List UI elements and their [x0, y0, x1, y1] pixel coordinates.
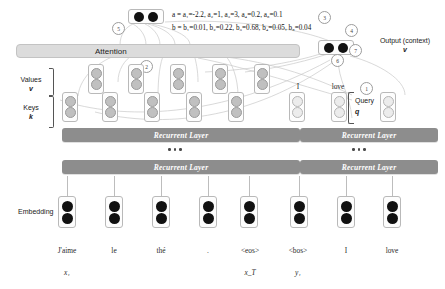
embedding-dot — [244, 213, 255, 224]
embedding-connector — [299, 176, 300, 196]
query-label: Query — [355, 97, 374, 105]
embedding-cell-3 — [152, 196, 170, 228]
key-cell-1 — [62, 92, 78, 122]
step-marker-7: 7 — [349, 44, 362, 57]
formula-b: b = b₁=0.01, b₂=0.22, b₃=0.68, b₄=0.05, … — [172, 24, 311, 32]
embedding-dot — [294, 201, 305, 212]
step-marker-4: 4 — [345, 24, 358, 37]
target-token-3: love — [370, 246, 414, 255]
key-dot — [231, 96, 242, 107]
value-cell-5 — [254, 64, 270, 94]
weighted-sum-dot-1 — [134, 12, 144, 22]
decoder-state-label-1: I — [288, 82, 308, 91]
source-subscript-last: x_T — [226, 268, 274, 277]
key-cell-4 — [186, 92, 202, 122]
embedding-dot — [294, 213, 305, 224]
target-token-2: I — [327, 246, 365, 255]
decoder-state-dot — [292, 107, 303, 118]
embedding-connector — [114, 176, 115, 196]
embedding-connector — [208, 176, 209, 196]
decoder-state-cell-3 — [380, 92, 396, 122]
context-dot-2 — [338, 43, 348, 53]
encoder-recurrent-layer-bottom-label: Recurrent Layer — [154, 163, 209, 172]
key-dot — [65, 96, 76, 107]
key-cell-5 — [228, 92, 244, 122]
key-dot — [147, 107, 158, 118]
embedding-dot — [244, 201, 255, 212]
source-token-5: <eos> — [226, 246, 274, 255]
value-dot — [173, 79, 184, 90]
embedding-cell-5 — [240, 196, 258, 228]
decoder-recurrent-layer-bottom-label: Recurrent Layer — [342, 163, 397, 172]
embedding-cell-2 — [105, 196, 123, 228]
step-marker-5: 5 — [112, 22, 125, 35]
decoder-state-label-2: love — [325, 82, 351, 91]
decoder-recurrent-layer-top: Recurrent Layer — [300, 128, 438, 142]
encoder-recurrent-layer-bottom: Recurrent Layer — [62, 160, 300, 174]
source-token-3: thé — [138, 246, 184, 255]
keys-symbol: k — [14, 113, 48, 121]
weighted-sum-dot-2 — [148, 12, 158, 22]
output-context-symbol: v — [370, 46, 440, 54]
source-token-2: le — [92, 246, 136, 255]
embedding-cell-4 — [199, 196, 217, 228]
embedding-dot — [387, 201, 398, 212]
step-marker-6: 6 — [331, 54, 344, 67]
embedding-connector — [161, 176, 162, 196]
embedding-dot — [203, 213, 214, 224]
attention-bar[interactable]: Attention — [16, 44, 300, 58]
target-subscript-first: y₁ — [274, 268, 322, 277]
decoder-state-dot — [383, 96, 394, 107]
values-brace — [49, 68, 54, 96]
key-dot — [231, 107, 242, 118]
embedding-dot — [341, 213, 352, 224]
decoder-state-dot — [383, 107, 394, 118]
value-dot — [131, 79, 142, 90]
key-dot — [65, 107, 76, 118]
keys-brace — [49, 96, 54, 128]
query-dot — [334, 96, 345, 107]
output-context-label: Output (context) — [370, 37, 440, 45]
query-symbol: q — [355, 108, 359, 116]
value-dot — [257, 68, 268, 79]
key-dot — [189, 107, 200, 118]
weighted-sum-box — [128, 9, 164, 24]
source-subscript-first: x₁ — [42, 268, 92, 277]
decoder-recurrent-layer-top-label: Recurrent Layer — [342, 131, 397, 140]
step-marker-3: 3 — [318, 11, 331, 24]
decoder-layer-ellipsis — [352, 148, 366, 151]
embedding-dot — [62, 201, 73, 212]
key-dot — [189, 96, 200, 107]
embedding-connector — [67, 176, 68, 196]
target-token-1: <bos> — [274, 246, 322, 255]
value-dot — [91, 79, 102, 90]
diagram-canvas: 5 a = a₁=-2.2, a₂=1, a₃=3, a₄=0.2, a₅=0.… — [0, 0, 445, 289]
step-marker-1: 1 — [360, 82, 373, 95]
values-symbol: v — [14, 85, 48, 93]
formula-a: a = a₁=-2.2, a₂=1, a₃=3, a₄=0.2, a₅=0.1 — [172, 11, 283, 19]
value-dot — [173, 68, 184, 79]
value-dot — [257, 79, 268, 90]
embedding-dot — [109, 201, 120, 212]
query-cell — [331, 92, 347, 122]
encoder-recurrent-layer-top-label: Recurrent Layer — [154, 131, 209, 140]
key-cell-2 — [102, 92, 118, 122]
embedding-cell-7 — [337, 196, 355, 228]
embedding-connector — [392, 176, 393, 196]
value-dot — [131, 68, 142, 79]
key-dot — [147, 96, 158, 107]
key-dot — [105, 96, 116, 107]
source-token-4: . — [187, 246, 229, 255]
encoder-layer-ellipsis — [168, 148, 182, 151]
keys-label: Keys — [14, 104, 48, 112]
value-dot — [215, 68, 226, 79]
embedding-cell-1 — [58, 196, 76, 228]
context-dot-1 — [324, 43, 334, 53]
embedding-dot — [109, 213, 120, 224]
attention-label: Attention — [95, 47, 127, 56]
embedding-dot — [62, 213, 73, 224]
embedding-dot — [341, 201, 352, 212]
embedding-dot — [156, 213, 167, 224]
value-cell-1 — [88, 64, 104, 94]
encoder-recurrent-layer-top: Recurrent Layer — [62, 128, 300, 142]
